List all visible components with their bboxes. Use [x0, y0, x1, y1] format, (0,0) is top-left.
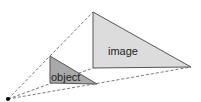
- image-triangle: [93, 12, 191, 68]
- origin-point: [6, 97, 10, 101]
- object-label: object: [51, 71, 80, 83]
- image-label: image: [108, 45, 138, 57]
- ray-to-image-top: [8, 12, 93, 99]
- projection-diagram: image object: [0, 0, 201, 102]
- ray-to-image-right: [8, 67, 191, 99]
